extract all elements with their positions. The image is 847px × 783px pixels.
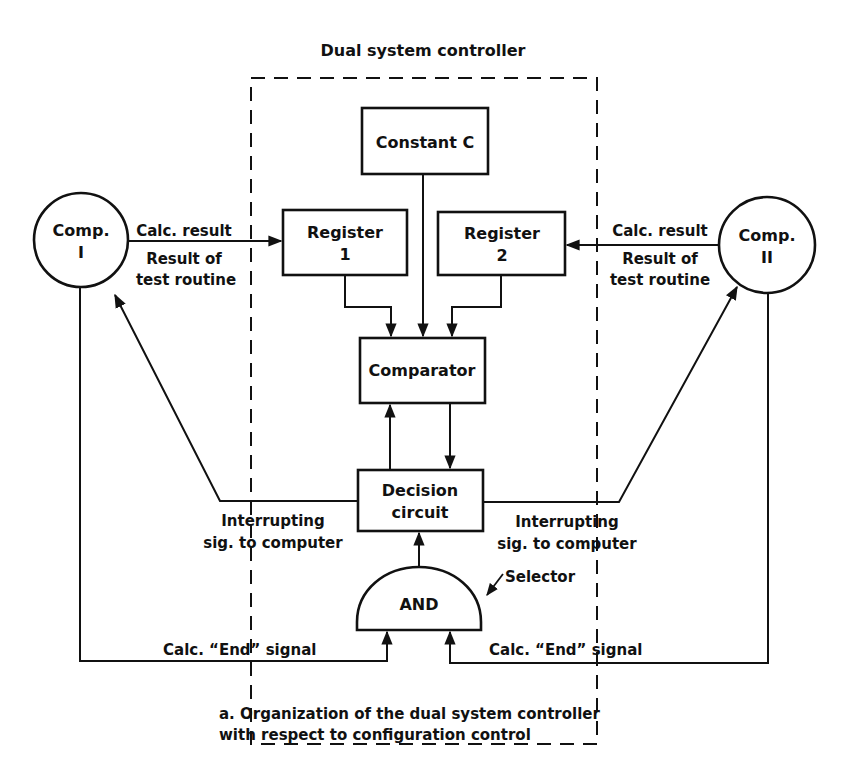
left-result-of-label: Result of: [146, 250, 222, 268]
diagram-title: Dual system controller: [321, 41, 526, 60]
register-1-line2: 1: [339, 245, 350, 264]
computer-1-line1: Comp.: [53, 221, 110, 240]
left-calc-result-label: Calc. result: [136, 222, 232, 240]
register-2-block: Register 2: [438, 212, 565, 275]
and-gate-label: AND: [399, 595, 438, 614]
computer-2-line1: Comp.: [739, 226, 796, 245]
and-gate: AND: [357, 567, 481, 630]
right-result-of-label: Result of: [622, 250, 698, 268]
left-interrupt-label-2: sig. to computer: [203, 534, 343, 552]
comparator-block: Comparator: [360, 338, 485, 403]
register-2-line1: Register: [464, 224, 540, 243]
left-interrupt-label-1: Interrupting: [221, 512, 325, 530]
register-1-block: Register 1: [283, 210, 407, 275]
right-interrupt-label-1: Interrupting: [515, 513, 619, 531]
selector-label: Selector: [505, 568, 576, 586]
computer-2-line2: II: [761, 248, 773, 267]
left-end-signal-label: Calc. “End” signal: [163, 641, 316, 659]
constant-c-block: Constant C: [362, 108, 488, 174]
register-2-line2: 2: [496, 246, 507, 265]
register-1-line1: Register: [307, 223, 383, 242]
constant-c-label: Constant C: [376, 133, 474, 152]
dual-system-controller-diagram: Dual system controller Constant C Regist…: [0, 0, 847, 783]
right-interrupt-label-2: sig. to computer: [497, 535, 637, 553]
decision-line2: circuit: [392, 503, 449, 522]
computer-2-node: Comp. II: [719, 197, 815, 293]
right-end-signal-label: Calc. “End” signal: [489, 641, 642, 659]
computer-1-line2: I: [78, 243, 84, 262]
decision-line1: Decision: [382, 481, 459, 500]
left-test-routine-label: test routine: [136, 271, 236, 289]
right-calc-result-label: Calc. result: [612, 222, 708, 240]
caption-line-2: with respect to configuration control: [219, 726, 531, 744]
comparator-label: Comparator: [369, 361, 476, 380]
computer-1-node: Comp. I: [34, 193, 128, 287]
caption-line-1: a. Organization of the dual system contr…: [219, 705, 600, 723]
right-test-routine-label: test routine: [610, 271, 710, 289]
decision-circuit-block: Decision circuit: [358, 470, 483, 531]
